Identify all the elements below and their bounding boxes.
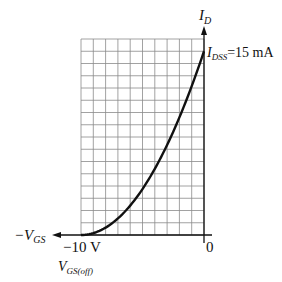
- transfer-characteristic-chart: ID IDSS=15 mA −VGS −10 V VGS(off) 0: [0, 0, 282, 282]
- chart-grid: [81, 39, 204, 235]
- y-axis-label: ID: [198, 7, 212, 26]
- idss-annotation: IDSS=15 mA: [206, 45, 274, 62]
- x-zero-tick-label: 0: [206, 239, 214, 255]
- x-min-tick-label: −10 V: [63, 239, 101, 255]
- x-axis-arrow-icon: [52, 232, 61, 238]
- x-axis-label: −VGS: [14, 227, 46, 245]
- y-axis-arrow-icon: [201, 26, 207, 35]
- vgs-off-label: VGS(off): [58, 259, 93, 276]
